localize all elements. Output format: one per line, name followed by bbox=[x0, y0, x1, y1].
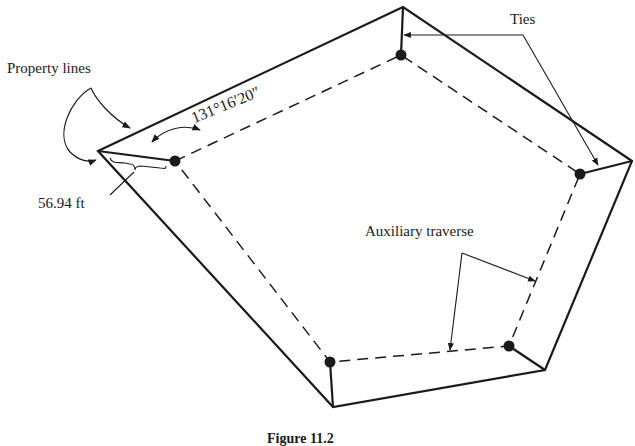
aux-leader-bottom bbox=[450, 253, 462, 350]
figure-caption: Figure 11.2 bbox=[267, 432, 334, 446]
tie-line-right bbox=[580, 161, 632, 174]
tie-line-top bbox=[401, 7, 403, 55]
station-point bbox=[575, 169, 586, 180]
station-point bbox=[396, 50, 407, 61]
tie-line-bottom-right bbox=[509, 346, 545, 370]
ties-leaders bbox=[404, 35, 598, 165]
tie-lines bbox=[98, 7, 632, 407]
ties-label: Ties bbox=[510, 12, 535, 27]
property-lines-polygon bbox=[98, 7, 632, 407]
station-point bbox=[504, 341, 515, 352]
distance-leader bbox=[110, 172, 134, 195]
aux-traverse-leaders bbox=[450, 253, 535, 350]
station-point bbox=[170, 156, 181, 167]
property-lines-label: Property lines bbox=[7, 61, 91, 76]
tie-line-bottom bbox=[330, 362, 333, 407]
leader-arrow-lower bbox=[64, 88, 96, 161]
tie-line-left bbox=[98, 151, 175, 161]
property-lines-leaders bbox=[64, 88, 130, 161]
leader-arrow-upper bbox=[91, 88, 130, 128]
tie-distance-label: 56.94 ft bbox=[38, 196, 85, 211]
angle-arc-arrow bbox=[152, 127, 200, 142]
ties-leader-right bbox=[523, 35, 598, 165]
station-point bbox=[325, 357, 336, 368]
auxiliary-traverse-label: Auxiliary traverse bbox=[365, 224, 474, 239]
aux-leader-right bbox=[462, 253, 535, 281]
